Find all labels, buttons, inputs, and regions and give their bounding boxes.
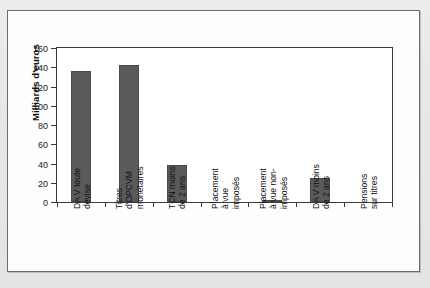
x-axis-label-line: à vue non-: [268, 168, 278, 209]
y-axis-tick-label: 20: [38, 179, 48, 189]
figure-frame: Milliards d'euros 020406080100120140160 …: [7, 10, 420, 272]
x-axis-tick: [392, 202, 393, 207]
x-axis-label-line: imposés: [279, 168, 289, 209]
y-axis-tick: 80: [51, 125, 57, 126]
x-axis-label-line: Placement: [210, 168, 220, 209]
y-axis-tick-label: 100: [33, 102, 48, 112]
x-axis-label-line: Placement: [258, 168, 268, 209]
x-axis-label-line: imposés: [231, 168, 241, 209]
y-axis-tick: 120: [51, 87, 57, 88]
x-axis-label-line: de 2 ans: [321, 164, 331, 209]
y-axis-tick-label: 60: [38, 140, 48, 150]
x-axis-label-line: sur titres: [369, 174, 379, 209]
x-axis-label-line: de 2 ans: [178, 166, 188, 209]
y-axis-tick-label: 80: [38, 121, 48, 131]
x-axis-label-line: TCN moins: [167, 166, 177, 209]
bar-chart: Milliards d'euros 020406080100120140160 …: [8, 11, 419, 271]
x-axis-label-line: monétaires: [135, 166, 145, 209]
y-axis-tick: 40: [51, 164, 57, 165]
y-axis-tick-label: 160: [33, 44, 48, 54]
y-axis-tick: 60: [51, 144, 57, 145]
x-axis-tick: [153, 202, 154, 207]
x-axis-label-line: Titres: [114, 166, 124, 209]
x-axis-label-line: DA V moins: [311, 164, 321, 209]
y-axis-tick-label: 40: [38, 160, 48, 170]
x-axis-label-line: d'OPCVM: [125, 166, 135, 209]
x-axis-label-line: devise: [82, 168, 92, 209]
y-axis-tick-label: 140: [33, 63, 48, 73]
x-axis-tick: [105, 202, 106, 207]
x-axis-label-line: DA V toute: [72, 168, 82, 209]
y-axis-tick-label: 0: [43, 198, 48, 208]
plot-area: 020406080100120140160 DA V toutedeviseTi…: [56, 47, 393, 203]
scanned-page-background: Milliards d'euros 020406080100120140160 …: [0, 0, 430, 288]
y-axis-tick: 140: [51, 67, 57, 68]
y-axis-tick: 160: [51, 48, 57, 49]
y-axis-tick: 20: [51, 183, 57, 184]
x-axis-label-line: à vue: [221, 168, 231, 209]
y-axis-tick-label: 120: [33, 83, 48, 93]
x-axis-tick: [248, 202, 249, 207]
y-axis-tick: 100: [51, 106, 57, 107]
x-axis-label-line: Pensions: [359, 174, 369, 209]
x-axis-tick: [57, 202, 58, 207]
x-axis-tick: [344, 202, 345, 207]
x-axis-tick: [296, 202, 297, 207]
x-axis-tick: [201, 202, 202, 207]
